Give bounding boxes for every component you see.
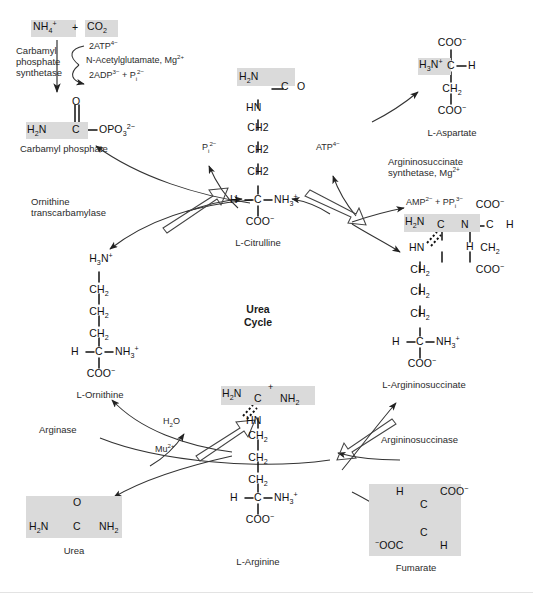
amine-group: H2N — [27, 123, 46, 135]
enzyme-ornithine-transcarbamylase: Ornithine transcarbamylase — [31, 196, 106, 218]
argsucc-ch2-b: CH2 — [410, 285, 429, 297]
enzyme-arginase: Arginase — [39, 424, 77, 435]
fumarate-h-top: H — [396, 485, 404, 497]
cofactor-pi: Pi2− — [202, 142, 216, 153]
arginine-ch2-c: CH2 — [248, 473, 267, 485]
cofactor-atp: ATP4− — [316, 142, 340, 153]
arginine-hn: HN — [246, 414, 261, 426]
argsucc-ch2-a: CH2 — [410, 263, 429, 275]
enzyme-line-3: synthetase — [16, 67, 62, 78]
enzyme-line-2: phosphate — [16, 56, 62, 67]
urea-cycle-diagram: NH4+ + CO2 Carbamyl phosphate synthetase… — [0, 0, 533, 600]
ornithine-ch2-a: CH2 — [89, 283, 108, 295]
argsucc-coo: COO− — [408, 357, 436, 369]
arginine-plus-charge: + — [268, 382, 273, 393]
argsucc-h2n: H2N — [405, 215, 424, 227]
enzyme-argininosuccinase: Argininosuccinase — [381, 434, 458, 445]
citrulline-nh3: NH3+ — [274, 193, 298, 205]
label-l-ornithine: L-Ornithine — [77, 389, 124, 400]
arginine-c-guanidino: C — [254, 392, 262, 404]
aspartate-amino: H3N+ — [419, 58, 443, 70]
cofactor-2adp-pi: 2ADP3− + Pi2− — [89, 70, 144, 81]
ornithine-ch2-c: CH2 — [89, 327, 108, 339]
label-fumarate: Fumarate — [396, 562, 437, 573]
arginine-h: H — [230, 491, 238, 503]
arginine-nh3: NH3+ — [274, 491, 298, 503]
fumarate-h-bottom: H — [440, 539, 448, 551]
fumarate-c-top: C — [420, 498, 428, 510]
ornithine-ch2-b: CH2 — [89, 305, 108, 317]
aspartate-coo-bottom: COO− — [438, 104, 466, 116]
cofactor-manganese: Mu2+ — [155, 444, 174, 455]
cofactor-water: H2O — [163, 416, 180, 427]
cofactor-2atp: 2ATP4− — [89, 41, 118, 52]
citrulline-h: H — [230, 193, 238, 205]
fumarate-coo-top: COO− — [440, 485, 468, 497]
urea-oxygen: O — [73, 496, 81, 508]
argsucc-ch2-c: CH2 — [410, 307, 429, 319]
phosphate-group: OPO32− — [99, 123, 135, 135]
enzyme-argininosuccinate-synthetase: Argininosuccinate synthetase, Mg2+ — [388, 156, 463, 178]
citrulline-oxygen: O — [297, 80, 305, 92]
carbonyl-oxygen: O — [72, 95, 80, 107]
argsucc-nh3: NH3+ — [436, 335, 460, 347]
argsucc-coo-side: COO− — [476, 263, 504, 275]
urea-h2n: H2N — [29, 520, 48, 532]
fumarate-c-bottom: C — [420, 526, 428, 538]
label-carbamyl-phosphate: Carbamyl phosphate — [20, 143, 108, 154]
argsucc-coo-top: COO− — [476, 198, 504, 210]
bottom-divider — [0, 592, 533, 593]
urea-nh2: NH2 — [99, 520, 118, 532]
arginine-coo: COO− — [246, 513, 274, 525]
page-title-line-1: Urea — [246, 303, 269, 315]
argsucc-n-h: H — [466, 240, 474, 252]
argsucc-c-side: C — [486, 218, 494, 230]
arginine-ch2-b: CH2 — [248, 451, 267, 463]
citrulline-ch2-a: CH2 — [247, 121, 268, 133]
citrulline-coo: COO− — [246, 215, 274, 227]
enzyme-line-1: Carbamyl — [16, 45, 62, 56]
label-l-argininosuccinate: L-Argininosuccinate — [382, 379, 465, 390]
substrate-co2: CO2 — [87, 20, 107, 32]
citrulline-carbonyl: C — [281, 80, 289, 92]
argsucc-ch2-side: CH2 — [480, 241, 499, 253]
ornithine-h: H — [71, 345, 79, 357]
argsucc-hn: HN — [409, 241, 424, 253]
citrulline-c-alpha: C — [254, 193, 262, 205]
enzyme-line-2: transcarbamylase — [31, 207, 106, 218]
page-title-line-2: Cycle — [244, 316, 272, 328]
fumarate-coo-bottom: −OOC — [375, 539, 403, 551]
arginine-c-alpha: C — [254, 491, 262, 503]
enzyme-line-1: Ornithine — [31, 196, 106, 207]
ornithine-c-alpha: C — [95, 345, 103, 357]
label-l-arginine: L-Arginine — [236, 556, 279, 567]
aspartate-h: H — [468, 59, 476, 71]
cofactor-amp-ppi: AMP2− + PPi3− — [406, 197, 463, 208]
aspartate-ch2: CH2 — [442, 82, 461, 94]
label-urea: Urea — [64, 545, 85, 556]
label-l-citrulline: L-Citrulline — [235, 237, 280, 248]
cofactor-n-acetylglutamate: N-Acetylglutamate, Mg2+ — [86, 55, 184, 66]
aspartate-c-alpha: C — [447, 59, 455, 71]
ornithine-h3n: H3N+ — [89, 252, 113, 264]
argsucc-h-side: H — [506, 218, 514, 230]
plus-sign: + — [72, 21, 78, 33]
arginine-nh2: NH2 — [280, 392, 299, 404]
enzyme-line-2: synthetase, Mg2+ — [388, 167, 463, 178]
citrulline-nh: HN — [246, 101, 261, 113]
substrate-ammonium: NH4+ — [33, 20, 57, 32]
argsucc-c-alpha: C — [416, 335, 424, 347]
argsucc-c-guanidino: C — [437, 218, 445, 230]
arginine-h2n: H2N — [222, 387, 241, 399]
urea-carbon: C — [73, 520, 81, 532]
enzyme-carbamyl-phosphate-synthetase: Carbamyl phosphate synthetase — [16, 45, 62, 79]
arginine-ch2-a: CH2 — [248, 429, 267, 441]
aspartate-coo-top: COO− — [438, 36, 466, 48]
citrulline-ch2-b: CH2 — [247, 143, 268, 155]
ammonium-formula: NH4+ — [33, 20, 57, 32]
carbon-center: C — [72, 123, 80, 135]
argsucc-n: N — [461, 218, 469, 230]
argsucc-h: H — [392, 335, 400, 347]
ornithine-coo: COO− — [87, 367, 115, 379]
ornithine-nh3: NH3+ — [115, 345, 139, 357]
